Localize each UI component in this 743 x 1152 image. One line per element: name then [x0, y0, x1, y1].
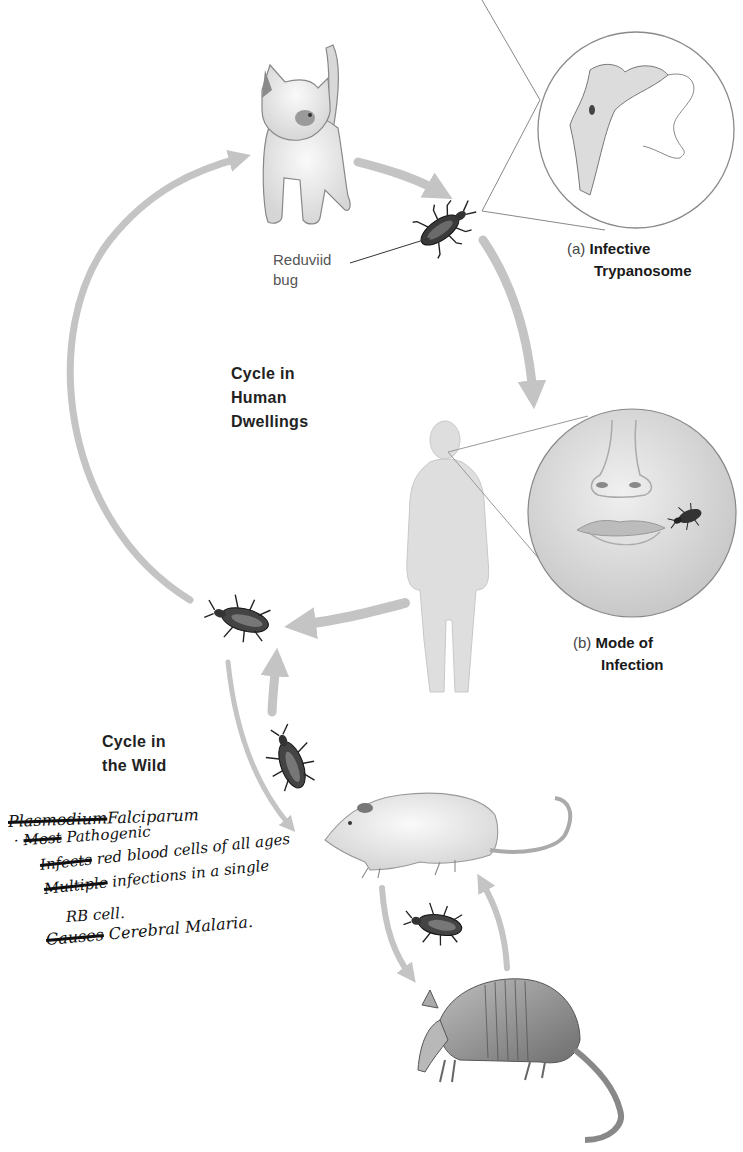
reduviid-bug-lower [401, 899, 465, 948]
panel-a-label: (a) Infective Trypanosome [567, 238, 692, 282]
reduviid-label: Reduviid bug [273, 250, 331, 290]
trypanosome-inset [482, 0, 734, 230]
arrow-human-to-bug [300, 603, 405, 625]
panel-b-line1: Mode of [596, 634, 654, 651]
panel-a-line1: Infective [590, 240, 651, 257]
panel-b-marker: (b) [573, 634, 591, 651]
arrow-bug-to-human [483, 240, 533, 395]
reduviid-label-line2: bug [273, 270, 331, 290]
reduviid-pointer-line [350, 238, 430, 263]
cycle-human-line2: Human [231, 386, 308, 410]
arrow-wild-up [272, 662, 276, 712]
reduviid-bug-wild [258, 720, 321, 795]
panel-a-line2: Trypanosome [594, 262, 692, 279]
human-silhouette [407, 421, 489, 692]
panel-b-line2: Infection [601, 656, 664, 673]
face-inset [448, 409, 736, 617]
cycle-wild-line1: Cycle in [102, 730, 166, 754]
reduviid-label-line1: Reduviid [273, 250, 331, 270]
arrow-armadillo-to-opossum [482, 882, 507, 968]
kitten-illustration [262, 45, 350, 224]
reduviid-bug-illustration [408, 187, 486, 262]
cycle-wild-label: Cycle in the Wild [102, 730, 166, 778]
cycle-wild-line2: the Wild [102, 754, 166, 778]
armadillo-illustration [418, 979, 621, 1140]
panel-a-marker: (a) [567, 240, 585, 257]
cycle-human-line1: Cycle in [231, 362, 308, 386]
arrow-big-left-arc [70, 158, 240, 600]
panel-b-label: (b) Mode of Infection [573, 632, 664, 676]
cycle-human-line3: Dwellings [231, 410, 308, 434]
cycle-human-dwellings-label: Cycle in Human Dwellings [231, 362, 308, 434]
reduviid-bug-left [201, 588, 274, 647]
arrow-opossum-to-armadillo [382, 888, 410, 975]
opossum-illustration [325, 793, 570, 878]
arrow-kitten-to-bug [358, 162, 440, 192]
life-cycle-illustration [0, 0, 743, 1152]
